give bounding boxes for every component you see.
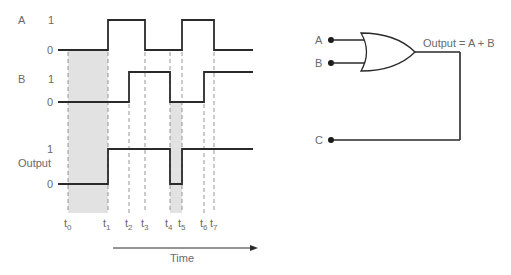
arrowhead-icon <box>250 245 258 251</box>
output-expression-label: Output = A + B <box>423 37 495 49</box>
signal-b-high-label: 1 <box>48 73 54 85</box>
time-label-t1: t1 <box>103 217 111 232</box>
time-axis-label: Time <box>170 252 194 264</box>
signal-b-label: B <box>18 73 25 85</box>
time-label-t5: t5 <box>178 217 186 232</box>
probe-c-terminal <box>328 137 334 143</box>
time-label-t3: t3 <box>141 217 149 232</box>
time-label-t4: t4 <box>165 217 173 232</box>
probe-c-label: C <box>315 134 323 146</box>
time-label-t7: t7 <box>210 217 218 232</box>
signal-b-low-label: 0 <box>47 96 53 108</box>
or-gate-icon <box>361 33 415 71</box>
signal-a-high-label: 1 <box>48 14 54 26</box>
time-label-t0: t0 <box>64 217 72 232</box>
output-low-label: 0 <box>47 178 53 190</box>
input-a-label: A <box>315 34 323 46</box>
shaded-interval-t0-t1 <box>68 50 108 213</box>
signal-a-low-label: 0 <box>47 44 53 56</box>
shaded-interval-t4-t5 <box>170 102 182 213</box>
diagram-canvas: A 1 0 B 1 0 1 Output 0 t0 t1 t2 t3 t4 t5… <box>0 0 511 275</box>
output-high-label: 1 <box>47 143 53 155</box>
or-gate-circuit: A B Output = A + B C <box>315 33 495 146</box>
signal-a-waveform <box>58 20 253 50</box>
signal-a-label: A <box>18 14 26 26</box>
input-b-label: B <box>315 57 322 69</box>
time-label-t2: t2 <box>125 217 133 232</box>
time-marker-labels: t0 t1 t2 t3 t4 t5 t6 t7 <box>64 217 218 232</box>
time-label-t6: t6 <box>200 217 208 232</box>
output-label: Output <box>18 157 51 169</box>
